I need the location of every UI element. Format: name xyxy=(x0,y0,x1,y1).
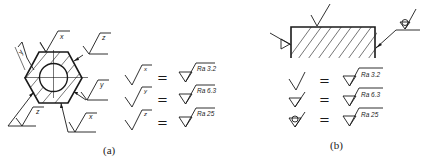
svg-text:Ra 25: Ra 25 xyxy=(197,110,215,117)
legend-b: = Ra 3.2 = Ra 6.3 = Ra 25 xyxy=(289,68,383,127)
svg-text:=: = xyxy=(319,112,330,127)
svg-text:Ra 6.3: Ra 6.3 xyxy=(361,91,381,98)
roughness-symbol-bottom-right-x: x xyxy=(60,103,97,132)
caption-a: (a) xyxy=(103,144,116,157)
legend-a: x = Ra 3.2 y = Ra 6.3 z = xyxy=(125,63,217,130)
legend-b-row-3: = Ra 25 xyxy=(289,108,383,127)
svg-text:y: y xyxy=(99,81,104,89)
legend-b-row-1: = Ra 3.2 xyxy=(289,68,383,90)
figure-a: x y z y z xyxy=(0,31,217,157)
svg-text:x: x xyxy=(59,33,64,40)
circle-triangle-check-icon xyxy=(289,118,301,127)
svg-text:Ra 3.2: Ra 3.2 xyxy=(197,65,217,72)
svg-text:=: = xyxy=(319,73,330,88)
svg-text:=: = xyxy=(157,92,168,107)
top-surface-check-icon xyxy=(311,4,330,26)
block-hatching xyxy=(280,15,410,70)
legend-a-row-y: y = Ra 6.3 xyxy=(125,85,217,107)
svg-text:z: z xyxy=(143,111,147,117)
legend-a-row-x: x = Ra 3.2 xyxy=(125,63,217,85)
svg-text:Ra 25: Ra 25 xyxy=(361,111,379,118)
svg-text:=: = xyxy=(157,70,168,85)
right-surface-circle-triangle-icon xyxy=(376,9,420,48)
svg-text:z: z xyxy=(101,34,106,41)
roughness-symbol-top-x: x xyxy=(40,31,70,52)
roughness-symbol-top-right-z: z xyxy=(74,33,111,61)
legend-a-row-z: z = Ra 25 xyxy=(125,108,215,130)
svg-text:z: z xyxy=(35,108,40,115)
surface-roughness-diagram: x y z y z xyxy=(0,0,430,168)
svg-text:y: y xyxy=(143,88,148,94)
svg-text:Ra 3.2: Ra 3.2 xyxy=(361,71,381,78)
roughness-symbol-bottom-left-z: z xyxy=(8,92,44,126)
caption-b: (b) xyxy=(330,139,343,152)
left-surface-triangle-icon xyxy=(270,33,291,49)
svg-text:=: = xyxy=(319,92,330,107)
svg-text:Ra 6.3: Ra 6.3 xyxy=(197,87,217,94)
svg-text:x: x xyxy=(143,66,148,72)
roughness-symbol-left-y: y xyxy=(15,42,34,70)
legend-b-row-2: = Ra 6.3 xyxy=(289,88,383,107)
plain-check-icon xyxy=(289,72,305,90)
figure-b: = Ra 3.2 = Ra 6.3 = Ra 25 xyxy=(270,4,420,152)
svg-text:x: x xyxy=(88,113,93,120)
svg-text:=: = xyxy=(157,115,168,130)
triangle-check-icon xyxy=(289,98,301,107)
